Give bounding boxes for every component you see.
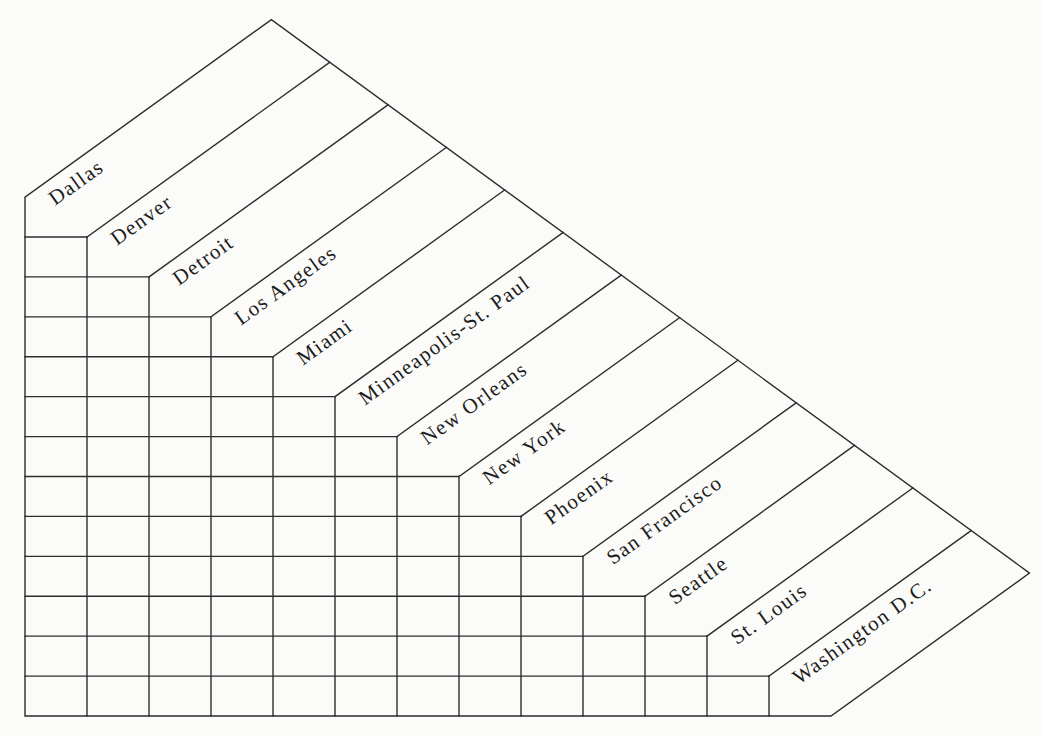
mileage-chart-figure: DallasDenverDetroitLos AngelesMiamiMinne… (0, 0, 1042, 736)
scanned-page: DallasDenverDetroitLos AngelesMiamiMinne… (0, 0, 1042, 736)
